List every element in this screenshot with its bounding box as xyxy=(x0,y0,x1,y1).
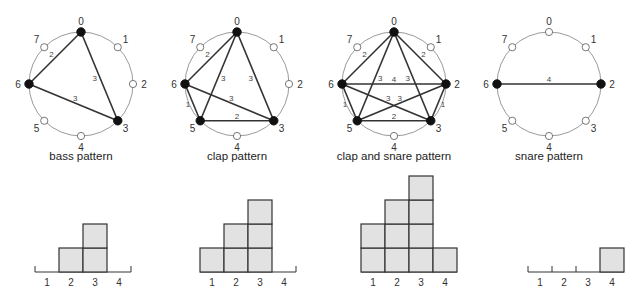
interval-edge-label: 1 xyxy=(343,100,348,109)
node-label: 3 xyxy=(591,123,597,134)
onset-node-empty xyxy=(390,132,397,139)
node-label: 3 xyxy=(279,123,285,134)
onset-node-empty xyxy=(41,44,48,51)
onset-node-empty xyxy=(285,80,292,87)
node-label: 1 xyxy=(436,34,442,45)
node-label: 0 xyxy=(234,16,240,27)
histogram-tick-label: 1 xyxy=(209,277,215,288)
onset-node-empty xyxy=(77,132,84,139)
histogram-box xyxy=(248,200,272,224)
onset-node-filled xyxy=(196,117,204,125)
node-label: 2 xyxy=(141,79,147,90)
node-label: 0 xyxy=(546,16,552,27)
pattern-panel: 223343311201234567clap and snare pattern… xyxy=(328,16,460,289)
onset-node-empty xyxy=(129,80,136,87)
interval-edge-label: 3 xyxy=(229,94,234,103)
onset-node-filled xyxy=(390,28,398,36)
node-label: 6 xyxy=(171,79,177,90)
node-label: 3 xyxy=(436,123,442,134)
interval-edge-label: 3 xyxy=(249,74,254,83)
onset-node-filled xyxy=(114,117,122,125)
onset-node-empty xyxy=(582,117,589,124)
interval-edge-label: 2 xyxy=(421,50,426,59)
interval-edge-label: 2 xyxy=(235,112,240,121)
interval-edge-label: 3 xyxy=(397,94,402,103)
interval-histogram: 1234 xyxy=(361,176,457,288)
histogram-box xyxy=(433,248,457,272)
onset-node-filled xyxy=(77,28,85,36)
node-label: 7 xyxy=(34,34,40,45)
pattern-panel: 23301234567bass pattern1234 xyxy=(15,16,147,289)
histogram-box xyxy=(200,248,224,272)
node-label: 2 xyxy=(297,79,303,90)
histogram-box xyxy=(83,248,107,272)
node-label: 7 xyxy=(190,34,196,45)
interval-edge-label: 3 xyxy=(386,94,391,103)
histogram-tick-label: 4 xyxy=(442,277,448,288)
onset-node-empty xyxy=(41,117,48,124)
interval-edge-label: 4 xyxy=(547,75,552,84)
histogram-tick-label: 4 xyxy=(281,277,287,288)
interval-diagrams-figure: 23301234567bass pattern12342333120123456… xyxy=(0,0,642,303)
onset-node-filled xyxy=(25,80,33,88)
histogram-box xyxy=(409,224,433,248)
histogram-box xyxy=(248,224,272,248)
node-label: 6 xyxy=(15,79,21,90)
interval-edge-label: 2 xyxy=(205,50,210,59)
node-label: 5 xyxy=(502,123,508,134)
histogram-tick-label: 1 xyxy=(537,277,543,288)
interval-histogram: 1234 xyxy=(35,224,131,288)
histogram-box xyxy=(409,248,433,272)
node-label: 5 xyxy=(34,123,40,134)
onset-node-filled xyxy=(270,117,278,125)
interval-edge-label: 2 xyxy=(49,50,54,59)
node-label: 6 xyxy=(328,79,334,90)
onset-node-filled xyxy=(338,80,346,88)
histogram-tick-label: 3 xyxy=(257,277,263,288)
histogram-box xyxy=(409,176,433,200)
histogram-box xyxy=(361,224,385,248)
histogram-box xyxy=(385,200,409,224)
histogram-tick-label: 1 xyxy=(44,277,50,288)
histogram-box xyxy=(83,224,107,248)
histogram-tick-label: 2 xyxy=(394,277,400,288)
histogram-tick-label: 2 xyxy=(233,277,239,288)
interval-edge-label: 3 xyxy=(73,94,78,103)
node-label: 1 xyxy=(123,34,129,45)
histogram-box xyxy=(600,248,624,272)
histogram-tick-label: 3 xyxy=(418,277,424,288)
onset-node-filled xyxy=(427,117,435,125)
node-label: 7 xyxy=(502,34,508,45)
onset-node-empty xyxy=(509,117,516,124)
histogram-tick-label: 2 xyxy=(561,277,567,288)
node-label: 0 xyxy=(78,16,84,27)
interval-edge-label: 4 xyxy=(392,75,397,84)
histogram-box xyxy=(409,200,433,224)
node-label: 1 xyxy=(591,34,597,45)
histogram-tick-label: 4 xyxy=(609,277,615,288)
pattern-title: bass pattern xyxy=(49,150,112,162)
histogram-tick-label: 3 xyxy=(92,277,98,288)
onset-node-empty xyxy=(427,44,434,51)
histogram-box xyxy=(385,224,409,248)
interval-edge-label: 1 xyxy=(186,100,191,109)
pattern-panel: 23331201234567clap pattern1234 xyxy=(171,16,303,289)
interval-edge-label: 2 xyxy=(392,112,397,121)
node-label: 0 xyxy=(391,16,397,27)
onset-node-empty xyxy=(545,28,552,35)
interval-edge-label: 3 xyxy=(406,74,411,83)
onset-node-empty xyxy=(545,132,552,139)
onset-node-empty xyxy=(354,44,361,51)
onset-node-empty xyxy=(509,44,516,51)
pattern-title: clap pattern xyxy=(207,150,267,162)
pattern-panel: 401234567snare pattern1234 xyxy=(483,16,624,289)
interval-edge xyxy=(200,32,237,121)
node-label: 2 xyxy=(609,79,615,90)
histogram-box xyxy=(224,248,248,272)
histogram-tick-label: 2 xyxy=(68,277,74,288)
histogram-box xyxy=(59,248,83,272)
onset-node-filled xyxy=(181,80,189,88)
onset-node-filled xyxy=(597,80,605,88)
onset-node-empty xyxy=(582,44,589,51)
node-label: 3 xyxy=(123,123,129,134)
